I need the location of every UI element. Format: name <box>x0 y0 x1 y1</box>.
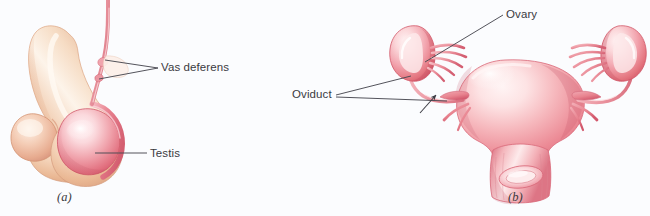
leader-oviduct-upper <box>336 76 411 95</box>
label-oviduct: Oviduct <box>292 88 332 100</box>
uterine-horn-right <box>572 91 601 100</box>
panel-caption-b: (b) <box>508 190 523 205</box>
figure-container: Vas deferens Testis Oviduct Ovary (a) (b… <box>0 0 650 216</box>
glans-highlight <box>17 119 43 137</box>
label-testis: Testis <box>150 147 180 159</box>
label-ovary: Ovary <box>506 8 537 20</box>
anatomy-illustration <box>0 0 650 216</box>
panel-caption-a: (a) <box>57 190 72 205</box>
male-anatomy-group <box>11 0 158 187</box>
label-vas-deferens: Vas deferens <box>161 61 229 73</box>
uterus-highlight <box>468 64 532 104</box>
uterine-horn-left <box>440 91 469 100</box>
female-anatomy-group <box>336 15 646 204</box>
testis-highlight <box>66 120 100 146</box>
